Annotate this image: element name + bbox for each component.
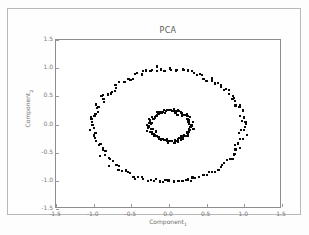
- y-tick-mark: [56, 96, 59, 97]
- x-tick-mark: [56, 204, 57, 207]
- y-axis-label-text: Component: [24, 93, 31, 128]
- scatter-point: [108, 165, 110, 167]
- scatter-point: [183, 134, 185, 136]
- x-axis-label-subscript: 1: [184, 222, 187, 227]
- scatter-point: [177, 140, 179, 142]
- scatter-point: [238, 132, 240, 134]
- y-tick-mark: [56, 40, 59, 41]
- scatter-point: [164, 112, 166, 114]
- chart-title: PCA: [55, 26, 281, 35]
- scatter-point: [118, 165, 120, 167]
- y-axis-label: Component2: [24, 79, 33, 139]
- scatter-point: [117, 169, 119, 171]
- scatter-point: [146, 130, 148, 132]
- x-axis-label: Component1: [55, 218, 281, 227]
- y-tick-label: 0.0: [35, 121, 53, 127]
- scatter-point: [228, 93, 230, 95]
- scatter-point: [104, 150, 106, 152]
- x-tick-label: 1.5: [269, 211, 293, 217]
- scatter-point: [132, 78, 134, 80]
- scatter-point: [145, 69, 147, 71]
- scatter-point: [199, 73, 201, 75]
- scatter-point: [118, 81, 120, 83]
- scatter-point: [214, 171, 216, 173]
- scatter-point: [142, 178, 144, 180]
- scatter-point: [100, 95, 102, 97]
- scatter-point: [121, 170, 123, 172]
- scatter-point: [99, 155, 101, 157]
- scatter-point: [237, 142, 239, 144]
- y-tick-label: 0.5: [35, 92, 53, 98]
- y-tick-label: 1.5: [35, 36, 53, 42]
- scatter-point: [141, 73, 143, 75]
- scatter-point: [147, 127, 149, 129]
- scatter-point: [242, 109, 244, 111]
- scatter-point: [91, 124, 93, 126]
- scatter-point: [176, 69, 178, 71]
- scatter-point: [220, 84, 222, 86]
- y-axis-tick-labels: 1.51.00.50.0-0.5-1.0-1.5: [32, 39, 53, 208]
- scatter-point: [176, 114, 178, 116]
- scatter-point: [239, 104, 241, 106]
- scatter-point: [232, 95, 234, 97]
- scatter-point: [177, 109, 179, 111]
- scatter-point: [244, 121, 246, 123]
- scatter-point: [196, 74, 198, 76]
- y-tick-mark: [56, 68, 59, 69]
- y-tick-label: 1.0: [35, 64, 53, 70]
- scatter-point: [182, 137, 184, 139]
- x-tick-mark: [94, 204, 95, 207]
- scatter-point: [150, 123, 152, 125]
- y-tick-label: -0.5: [35, 149, 53, 155]
- scatter-point: [239, 138, 241, 140]
- scatter-point: [94, 137, 96, 139]
- x-tick-label: 0.5: [194, 211, 218, 217]
- y-axis-label-subscript: 2: [29, 90, 34, 93]
- scatter-point: [202, 78, 204, 80]
- plot-area-frame: [55, 39, 281, 208]
- scatter-point: [180, 111, 182, 113]
- scatter-point: [181, 180, 183, 182]
- x-tick-label: -0.5: [118, 211, 142, 217]
- scatter-point: [110, 92, 112, 94]
- scatter-point: [129, 79, 131, 81]
- scatter-point: [223, 162, 225, 164]
- scatter-point: [93, 115, 95, 117]
- scatter-point: [214, 82, 216, 84]
- scatter-point: [163, 70, 165, 72]
- scatter-point: [114, 90, 116, 92]
- scatter-point: [173, 142, 175, 144]
- scatter-point: [95, 140, 97, 142]
- scatter-point: [164, 179, 166, 181]
- scatter-points-layer: [56, 40, 282, 209]
- x-tick-label: 0.0: [156, 211, 180, 217]
- scatter-point: [220, 166, 222, 168]
- scatter-point: [181, 115, 183, 117]
- scatter-point: [243, 129, 245, 131]
- scatter-point: [183, 114, 185, 116]
- scatter-point: [246, 134, 248, 136]
- page-background: PCA 1.51.00.50.0-0.5-1.0-1.5 -1.5-1.0-0.…: [0, 0, 309, 235]
- scatter-point: [188, 128, 190, 130]
- scatter-point: [167, 179, 169, 181]
- scatter-point: [226, 159, 228, 161]
- y-tick-mark: [56, 125, 59, 126]
- scatter-point: [160, 68, 162, 70]
- scatter-point: [205, 80, 207, 82]
- scatter-point: [220, 86, 222, 88]
- scatter-point: [156, 70, 158, 72]
- scatter-point: [208, 171, 210, 173]
- scatter-point: [242, 138, 244, 140]
- scatter-point: [234, 100, 236, 102]
- scatter-point: [218, 169, 220, 171]
- x-tick-label: -1.5: [43, 211, 67, 217]
- scatter-point: [225, 88, 227, 90]
- scatter-point: [98, 144, 100, 146]
- scatter-point: [188, 123, 190, 125]
- scatter-point: [211, 77, 213, 79]
- scatter-point: [142, 70, 144, 72]
- scatter-point: [187, 69, 189, 71]
- scatter-point: [136, 72, 138, 74]
- scatter-point: [97, 111, 99, 113]
- scatter-point: [159, 180, 161, 182]
